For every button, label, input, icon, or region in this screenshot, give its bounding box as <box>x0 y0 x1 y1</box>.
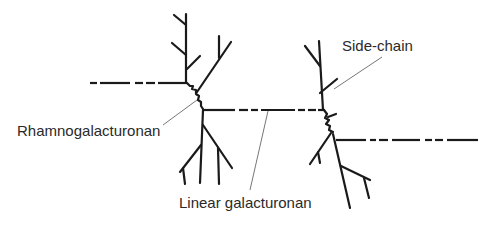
side-chain-upper-right <box>305 41 337 110</box>
leader-line-rhamnogalacturonan <box>163 100 197 125</box>
side-chain-lower-left <box>180 110 232 184</box>
side-chain-lower-right <box>310 133 370 208</box>
leader-line-side-chain <box>334 57 382 89</box>
leader-line-linear-galacturonan <box>250 111 268 190</box>
right-rhamnogalacturonan-cluster <box>305 41 478 208</box>
side-chain-upper-left <box>172 14 200 83</box>
side-chain-upper-diagonal <box>197 36 231 92</box>
side-stub <box>328 114 336 117</box>
rhamnogalacturonan-zigzag-right <box>324 110 333 132</box>
rhamnogalacturonan-label: Rhamnogalacturonan <box>17 123 160 138</box>
linear-galacturonan-label: Linear galacturonan <box>179 195 312 210</box>
side-chain-label: Side-chain <box>342 38 413 53</box>
left-rhamnogalacturonan-cluster <box>90 14 232 184</box>
